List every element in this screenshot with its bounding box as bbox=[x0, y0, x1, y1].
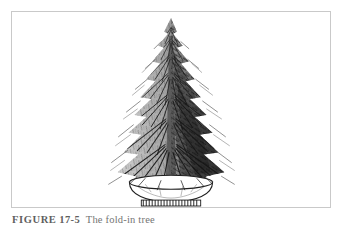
figure-caption-label: FIGURE bbox=[12, 214, 56, 225]
tree-stand bbox=[129, 175, 212, 206]
figure-plate-frame bbox=[11, 11, 331, 208]
figure-caption-number: 17-5 bbox=[59, 214, 80, 225]
figure-caption: FIGURE 17-5 The fold-in tree bbox=[12, 214, 330, 225]
figure-page: FIGURE 17-5 The fold-in tree bbox=[0, 0, 342, 225]
tree-crown bbox=[112, 12, 237, 190]
figure-caption-line: FIGURE 17-5 The fold-in tree bbox=[12, 214, 155, 225]
figure-plate-inner bbox=[12, 12, 330, 207]
conifer-tree-illustration bbox=[12, 12, 330, 207]
figure-caption-text: The fold-in tree bbox=[86, 214, 155, 225]
